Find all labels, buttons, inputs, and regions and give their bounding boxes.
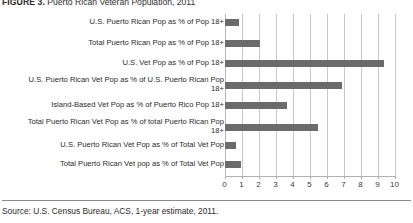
gridline-0 — [225, 14, 226, 176]
bar — [225, 161, 241, 168]
tickmark-5 — [310, 176, 311, 179]
figure-title: FIGURE 3. Puerto Rican Veteran Populatio… — [2, 0, 195, 7]
bar — [225, 19, 239, 26]
figure-caption: Puerto Rican Veteran Population, 2011 — [45, 0, 195, 7]
x-tick-label: 0 — [222, 180, 226, 189]
bar — [225, 40, 261, 47]
bar — [225, 82, 342, 89]
x-tick-label: 9 — [375, 180, 379, 189]
gridline-4 — [293, 14, 294, 176]
gridline-7 — [344, 14, 345, 176]
category-label: Total Puerto Rican Vet Pop as % of total… — [24, 117, 224, 135]
bar — [225, 124, 319, 131]
tickmark-6 — [327, 176, 328, 179]
tickmark-0 — [225, 176, 226, 179]
x-axis-tick-labels: 012345678910 — [0, 180, 413, 194]
source-note: Source: U.S. Census Bureau, ACS, 1-year … — [2, 206, 218, 216]
gridline-2 — [259, 14, 260, 176]
figure-number: FIGURE 3. — [2, 0, 45, 7]
x-tick-label: 3 — [273, 180, 277, 189]
x-tick-label: 4 — [290, 180, 294, 189]
gridline-9 — [378, 14, 379, 176]
x-tick-label: 1 — [239, 180, 243, 189]
tickmark-9 — [378, 176, 379, 179]
gridline-10 — [395, 14, 396, 176]
gridline-3 — [276, 14, 277, 176]
source-divider — [2, 200, 411, 201]
tickmark-8 — [361, 176, 362, 179]
tickmark-1 — [242, 176, 243, 179]
bar — [225, 102, 288, 109]
category-label: Total Puerto Rican Pop as % of Pop 18+ — [24, 38, 224, 47]
x-tick-label: 2 — [256, 180, 260, 189]
gridline-6 — [327, 14, 328, 176]
bar — [225, 142, 236, 149]
x-tick-label: 8 — [358, 180, 362, 189]
gridline-5 — [310, 14, 311, 176]
x-tick-label: 5 — [307, 180, 311, 189]
category-label: U.S. Vet Pop as % of Pop 18+ — [24, 58, 224, 67]
x-tick-label: 6 — [324, 180, 328, 189]
gridline-8 — [361, 14, 362, 176]
tickmark-10 — [395, 176, 396, 179]
tickmark-4 — [293, 176, 294, 179]
tickmark-7 — [344, 176, 345, 179]
category-label: Total Puerto Rican Vet pop as % of Total… — [24, 159, 224, 168]
category-label: U.S. Puerto Rican Vet Pop as % of U.S. P… — [24, 75, 224, 93]
gridline-1 — [242, 14, 243, 176]
category-label: U.S. Puerto Rican Vet Pop as % of Total … — [24, 140, 224, 149]
bar-chart: U.S. Puerto Rican Pop as % of Pop 18+Tot… — [0, 11, 413, 196]
category-label: Island-Based Vet Pop as % of Puerto Rico… — [24, 100, 224, 109]
tickmark-3 — [276, 176, 277, 179]
x-tick-label: 10 — [390, 180, 399, 189]
category-label: U.S. Puerto Rican Pop as % of Pop 18+ — [24, 17, 224, 26]
bar — [225, 60, 385, 67]
x-tick-label: 7 — [341, 180, 345, 189]
tickmark-2 — [259, 176, 260, 179]
